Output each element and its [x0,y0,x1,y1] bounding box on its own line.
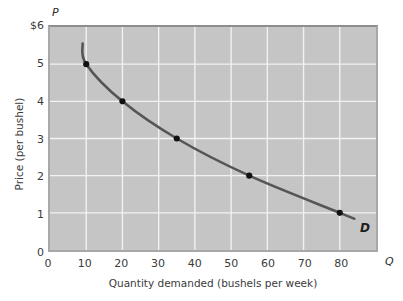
x-tick-label: 80 [326,258,356,269]
demand-curve-series [50,27,376,250]
x-axis-ticks: 01020304050607080 [0,258,403,274]
x-axis-symbol: Q [385,256,394,267]
x-tick-label: 60 [253,258,283,269]
plot-area [48,25,378,252]
demand-curve-label: D [360,222,370,234]
x-tick-label: 70 [290,258,320,269]
demand-curve-chart: P $6543210 01020304050607080 Price (per … [0,0,403,301]
x-tick-label: 50 [216,258,246,269]
x-axis-title: Quantity demanded (bushels per week) [48,277,378,289]
y-tick-label: 0 [0,247,44,258]
x-tick-label: 10 [70,258,100,269]
x-tick-label: 40 [180,258,210,269]
y-tick-label: 5 [0,57,44,68]
x-tick-label: 0 [33,258,63,269]
y-tick-label: $6 [0,20,44,31]
y-axis-title: Price (per bushel) [13,74,25,214]
y-axis-symbol: P [52,7,59,18]
x-tick-label: 20 [106,258,136,269]
x-tick-label: 30 [143,258,173,269]
